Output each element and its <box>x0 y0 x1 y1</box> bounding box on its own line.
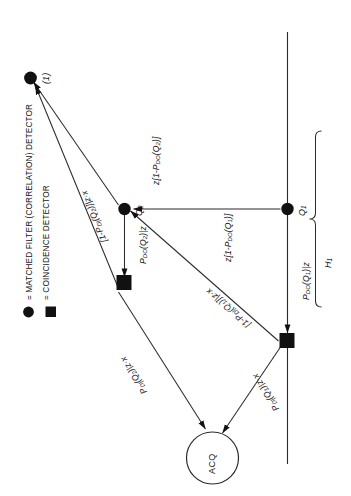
edge-label-q1-to-q2: z[1-PDO(Q1)] <box>222 214 232 262</box>
node-square-upper[interactable] <box>116 275 131 290</box>
legend-item-coincidence-label: = COINCIDENCE DETECTOR <box>41 185 50 300</box>
node-q2[interactable] <box>118 203 130 215</box>
node-acq-label: ACQ <box>206 453 216 474</box>
diagram-svg <box>0 0 351 496</box>
legend-circle-icon <box>23 307 34 318</box>
legend-markers <box>23 307 56 318</box>
rotated-figure-group: ACQ Q1 Q2 (1) H1 PDO(Q2)|z PD|(Q2)|z·x [… <box>0 0 351 496</box>
node-q1-label: Q1 <box>296 205 306 216</box>
figure-canvas: ACQ Q1 Q2 (1) H1 PDO(Q2)|z PD|(Q2)|z·x [… <box>0 0 351 496</box>
legend-square-icon <box>45 307 56 318</box>
edge-label-q2-to-sq-upper: PDO(Q2)|z <box>137 226 147 264</box>
edge-label-q1-to-sq-lower: PDO(Q1)|z <box>300 262 310 300</box>
node-square-lower[interactable] <box>279 333 294 348</box>
edge-label-q2-to-top: z[1-PDO(Q2)] <box>150 137 160 185</box>
node-top-1-label: (1) <box>40 73 50 84</box>
legend-item-matched-filter-label: = MATCHED FILTER (CORRELATION) DETECTOR <box>24 104 33 300</box>
node-q2-label: Q2 <box>133 205 143 216</box>
node-top-1[interactable] <box>24 72 37 85</box>
edge-sq-lower-to-acq <box>222 344 282 433</box>
node-q1[interactable] <box>281 203 293 215</box>
edge-sq-lower-to-q2 <box>130 211 278 341</box>
h1-brace-label: H1 <box>322 258 332 268</box>
